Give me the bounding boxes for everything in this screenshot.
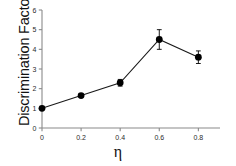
data-point-marker (39, 105, 46, 112)
data-point-marker (78, 92, 85, 99)
y-axis-tick-label: 2 (33, 85, 37, 92)
x-axis-tick-label: 0.6 (154, 134, 164, 141)
plot-area: 012345600.20.40.60.8 (0, 0, 236, 166)
data-point-marker (195, 54, 202, 61)
chart-figure: Discrimination Factor η 012345600.20.40.… (0, 0, 236, 166)
y-axis-tick-label: 5 (33, 26, 37, 33)
y-axis-tick-label: 0 (33, 125, 37, 132)
y-axis-tick-label: 1 (33, 105, 37, 112)
x-axis-tick-label: 0.8 (193, 134, 203, 141)
y-axis-tick-label: 3 (33, 66, 37, 73)
data-point-marker (156, 36, 163, 43)
x-axis-tick-label: 0.2 (76, 134, 86, 141)
x-axis-tick-label: 0.4 (115, 134, 125, 141)
data-point-marker (117, 79, 124, 86)
y-axis-tick-label: 6 (33, 7, 37, 14)
y-axis-tick-label: 4 (33, 46, 37, 53)
x-axis-tick-label: 0 (40, 134, 44, 141)
data-line (42, 40, 198, 109)
